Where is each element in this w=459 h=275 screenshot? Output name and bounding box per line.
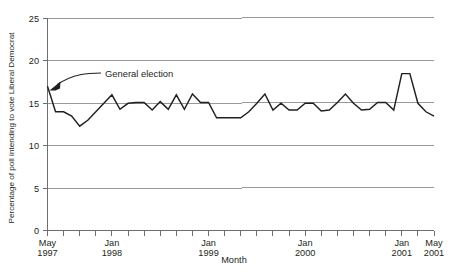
x-axis (48, 231, 435, 236)
y-tick-label-25: 25 (29, 14, 39, 24)
x-tick-label-group: Jan1998 (102, 238, 122, 258)
y-tick-label-20: 20 (29, 56, 39, 66)
y-axis-title: Percentage of poll intending to vote Lib… (7, 32, 16, 224)
y-tick-label-10: 10 (29, 141, 39, 151)
general-election-annotation: General election (50, 68, 174, 91)
y-axis: 25 20 15 10 5 0 (29, 14, 48, 236)
x-tick-label-month: Jan (394, 238, 409, 248)
x-tick-label-month: Jan (298, 238, 313, 248)
x-tick-label-month: Jan (201, 238, 216, 248)
chart-container: 25 20 15 10 5 0 May1997Jan1998Jan1999Jan… (0, 0, 459, 275)
x-tick-label-month: May (39, 238, 57, 248)
annotation-arrow-head (50, 82, 61, 91)
x-tick-label-year: 1999 (198, 248, 218, 258)
gridline-20 (48, 60, 435, 61)
x-tick-label-year: 2001 (392, 248, 412, 258)
x-tick-label-month: Jan (105, 238, 120, 248)
y-tick-label-15: 15 (29, 99, 39, 109)
gridline-25 (48, 18, 435, 19)
y-tick-label-0: 0 (34, 226, 39, 236)
x-tick-label-group: May1997 (37, 238, 57, 258)
x-tick-label-group: Jan2000 (295, 238, 315, 258)
x-tick-label-year: 1997 (37, 248, 57, 258)
annotation-leader-line (58, 73, 102, 85)
x-tick-label-group: May2001 (424, 238, 444, 258)
poll-series-line (48, 74, 435, 127)
x-tick-label-group: Jan2001 (392, 238, 412, 258)
x-tick-label-year: 2001 (424, 248, 444, 258)
x-tick-label-month: May (425, 238, 443, 248)
y-tick-label-5: 5 (34, 184, 39, 194)
annotation-label: General election (105, 68, 173, 79)
x-tick-label-year: 1998 (102, 248, 122, 258)
x-tick-label-group: Jan1999 (198, 238, 218, 258)
x-axis-title: Month (221, 255, 247, 265)
x-tick-marks (48, 231, 435, 236)
x-tick-label-year: 2000 (295, 248, 315, 258)
gridline-5 (48, 188, 435, 189)
line-chart: 25 20 15 10 5 0 May1997Jan1998Jan1999Jan… (0, 0, 459, 275)
gridline-10 (48, 145, 435, 146)
